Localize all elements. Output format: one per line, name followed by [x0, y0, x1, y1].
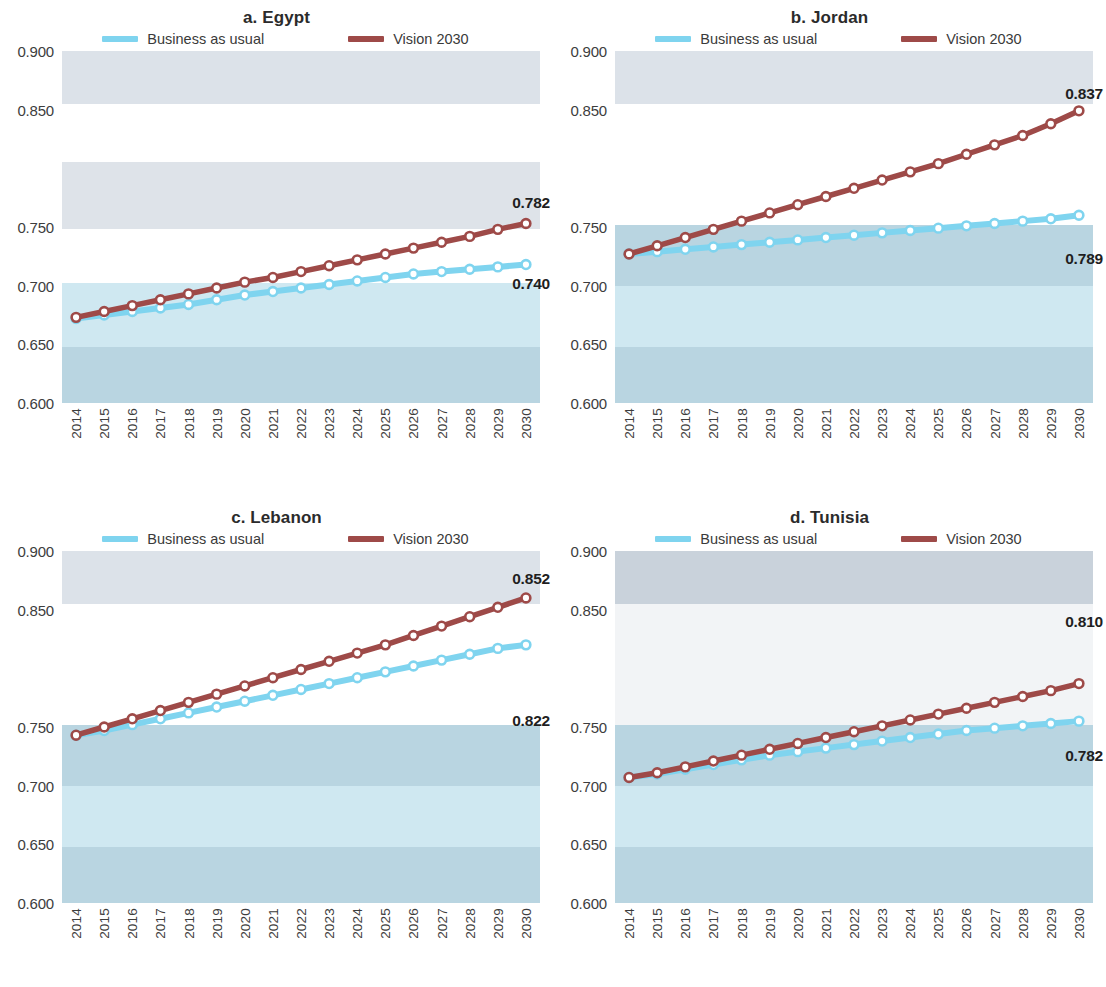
- y-axis: 0.9000.8500.7500.7000.6500.600: [0, 51, 58, 403]
- y-axis: 0.9000.8500.7500.7000.6500.600: [553, 51, 611, 403]
- y-tick-label: 0.700: [17, 277, 54, 294]
- data-point-marker: [465, 650, 474, 659]
- data-point-marker: [325, 280, 334, 289]
- data-point-marker: [212, 295, 221, 304]
- x-tick-label: 2017: [706, 408, 721, 439]
- x-tick-label: 2014: [69, 408, 84, 439]
- x-tick-label: 2027: [988, 908, 1003, 939]
- x-tick-label: 2026: [406, 908, 421, 939]
- series-layer: [615, 51, 1093, 403]
- data-point-marker: [184, 709, 193, 718]
- legend-item-business-as-usual[interactable]: Business as usual: [102, 531, 264, 547]
- x-tick-label: 2023: [875, 908, 890, 939]
- legend-label-bau: Business as usual: [700, 31, 817, 47]
- x-tick-label: 2022: [294, 408, 309, 439]
- legend-swatch-vision: [348, 536, 384, 542]
- data-point-marker: [325, 657, 334, 666]
- legend-item-business-as-usual[interactable]: Business as usual: [655, 31, 817, 47]
- data-point-marker: [850, 740, 859, 749]
- plot-canvas: 0.8100.782: [615, 551, 1093, 903]
- data-point-marker: [906, 226, 915, 235]
- x-tick-label: 2025: [931, 908, 946, 939]
- y-tick-label: 0.900: [570, 543, 607, 560]
- data-point-marker: [212, 703, 221, 712]
- legend-swatch-bau: [655, 536, 691, 542]
- y-tick-label: 0.600: [17, 395, 54, 412]
- legend-item-vision-2030[interactable]: Vision 2030: [348, 531, 469, 547]
- panel-title: d. Tunisia: [553, 500, 1106, 527]
- end-label-business-as-usual: 0.789: [1065, 250, 1103, 268]
- data-point-marker: [409, 662, 418, 671]
- data-point-marker: [934, 224, 943, 233]
- x-tick-label: 2021: [819, 408, 834, 439]
- data-point-marker: [1075, 679, 1084, 688]
- y-tick-label: 0.900: [570, 43, 607, 60]
- data-point-marker: [128, 714, 137, 723]
- data-point-marker: [1046, 119, 1055, 128]
- data-point-marker: [850, 231, 859, 240]
- y-tick-label: 0.700: [570, 277, 607, 294]
- data-point-marker: [493, 644, 502, 653]
- data-point-marker: [212, 284, 221, 293]
- x-tick-label: 2024: [350, 408, 365, 439]
- x-tick-label: 2019: [210, 408, 225, 439]
- data-point-marker: [1018, 721, 1027, 730]
- x-tick-label: 2029: [1044, 908, 1059, 939]
- data-point-marker: [297, 665, 306, 674]
- x-tick-label: 2016: [125, 908, 140, 939]
- data-point-marker: [381, 640, 390, 649]
- data-point-marker: [765, 238, 774, 247]
- legend-item-business-as-usual[interactable]: Business as usual: [655, 531, 817, 547]
- x-tick-label: 2025: [378, 908, 393, 939]
- x-tick-label: 2018: [735, 908, 750, 939]
- panel-title: a. Egypt: [0, 0, 553, 27]
- x-tick-label: 2028: [1016, 408, 1031, 439]
- legend-item-business-as-usual[interactable]: Business as usual: [102, 31, 264, 47]
- panel-title: c. Lebanon: [0, 500, 553, 527]
- end-label-business-as-usual: 0.782: [1065, 747, 1103, 765]
- data-point-marker: [1018, 131, 1027, 140]
- series-layer: [62, 551, 540, 903]
- data-point-marker: [409, 270, 418, 279]
- legend-item-vision-2030[interactable]: Vision 2030: [901, 531, 1022, 547]
- x-tick-label: 2027: [435, 908, 450, 939]
- x-tick-label: 2017: [153, 908, 168, 939]
- data-point-marker: [240, 291, 249, 300]
- data-point-marker: [268, 691, 277, 700]
- data-point-marker: [821, 733, 830, 742]
- x-tick-label: 2015: [97, 408, 112, 439]
- plot-area: 0.9000.8500.7500.7000.6500.6000.8100.782…: [553, 551, 1106, 978]
- data-point-marker: [325, 679, 334, 688]
- x-tick-label: 2022: [294, 908, 309, 939]
- x-tick-label: 2026: [406, 408, 421, 439]
- data-point-marker: [821, 744, 830, 753]
- series-layer: [615, 551, 1093, 903]
- y-tick-label: 0.750: [570, 219, 607, 236]
- x-axis: 2014201520162017201820192020202120222023…: [62, 408, 540, 478]
- data-point-marker: [990, 698, 999, 707]
- chart-legend: Business as usualVision 2030: [553, 527, 1106, 551]
- data-point-marker: [962, 150, 971, 159]
- data-point-marker: [878, 228, 887, 237]
- legend-item-vision-2030[interactable]: Vision 2030: [348, 31, 469, 47]
- data-point-marker: [465, 232, 474, 241]
- data-point-marker: [990, 219, 999, 228]
- x-tick-label: 2030: [1072, 408, 1087, 439]
- y-tick-label: 0.650: [17, 836, 54, 853]
- data-point-marker: [100, 307, 109, 316]
- x-tick-label: 2016: [678, 408, 693, 439]
- data-point-marker: [934, 710, 943, 719]
- data-point-marker: [709, 225, 718, 234]
- x-tick-label: 2021: [819, 908, 834, 939]
- legend-label-vision: Vision 2030: [946, 531, 1022, 547]
- data-point-marker: [522, 640, 531, 649]
- y-tick-label: 0.850: [570, 101, 607, 118]
- data-point-marker: [1018, 692, 1027, 701]
- chart-panel-4: d. TunisiaBusiness as usualVision 20300.…: [553, 500, 1106, 987]
- x-tick-label: 2018: [735, 408, 750, 439]
- data-point-marker: [184, 289, 193, 298]
- chart-grid: a. EgyptBusiness as usualVision 20300.90…: [0, 0, 1106, 987]
- legend-item-vision-2030[interactable]: Vision 2030: [901, 31, 1022, 47]
- data-point-marker: [737, 240, 746, 249]
- series-vision-2030: [72, 594, 531, 740]
